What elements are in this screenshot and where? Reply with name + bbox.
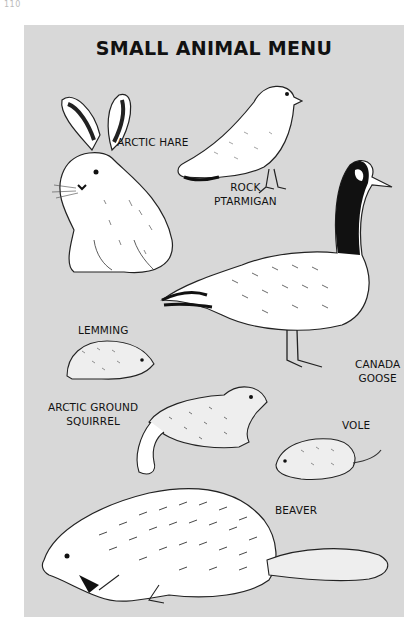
vole-label: VOLE — [342, 418, 370, 432]
lemming-label: LEMMING — [78, 323, 128, 337]
canada-goose-label: CANADA GOOSE — [355, 357, 400, 385]
figure-title: SMALL ANIMAL MENU — [24, 37, 404, 59]
arctic-ground-squirrel-illustration — [129, 377, 274, 482]
beaver-illustration — [39, 475, 399, 610]
page-number: 110 — [4, 0, 21, 9]
figure-panel: SMALL ANIMAL MENU ARCTIC HARE ROCK PTARM… — [24, 25, 404, 617]
canada-goose-illustration — [162, 155, 397, 385]
arctic-ground-squirrel-label: ARCTIC GROUND SQUIRREL — [48, 400, 138, 428]
